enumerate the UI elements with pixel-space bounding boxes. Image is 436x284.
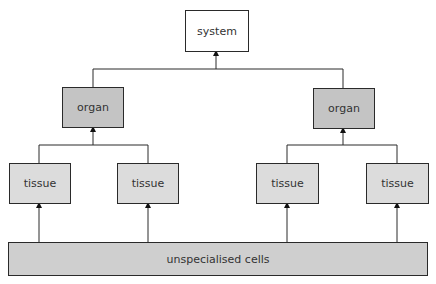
tissue-node-3: tissue [256, 163, 319, 204]
organ-node-right: organ [313, 88, 375, 129]
tissue-label: tissue [381, 177, 414, 190]
tissue-label: tissue [271, 177, 304, 190]
cells-label: unspecialised cells [166, 253, 269, 266]
tissue-node-1: tissue [9, 163, 71, 204]
system-label: system [197, 25, 237, 38]
organ-label: organ [77, 101, 109, 114]
tissue-label: tissue [24, 177, 57, 190]
organ-label: organ [328, 102, 360, 115]
tissue-node-2: tissue [117, 163, 179, 204]
tissue-node-4: tissue [366, 163, 429, 204]
organ-node-left: organ [62, 87, 124, 128]
system-node: system [185, 10, 249, 52]
unspecialised-cells-node: unspecialised cells [8, 242, 428, 276]
tissue-label: tissue [132, 177, 165, 190]
